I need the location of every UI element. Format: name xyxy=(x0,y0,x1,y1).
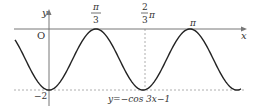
x-axis-label: x xyxy=(241,30,247,41)
tick-2pi-over-3-pi: π xyxy=(148,10,156,20)
tick-2pi-over-3-den: 3 xyxy=(142,15,148,25)
equation-label: y=−cos 3x−1 xyxy=(107,94,170,104)
tick-pi-over-3-num: π xyxy=(92,2,100,12)
y-axis-label: y xyxy=(41,7,48,18)
y-tick-minus-2: −2 xyxy=(34,91,47,101)
tick-pi: π xyxy=(189,18,197,28)
chart: y x O π 3 2 3 π π −2 y=−cos 3x−1 xyxy=(0,0,253,107)
tick-2pi-over-3-num: 2 xyxy=(142,2,148,12)
tick-pi-over-3-den: 3 xyxy=(93,15,99,25)
origin-label: O xyxy=(37,30,45,41)
